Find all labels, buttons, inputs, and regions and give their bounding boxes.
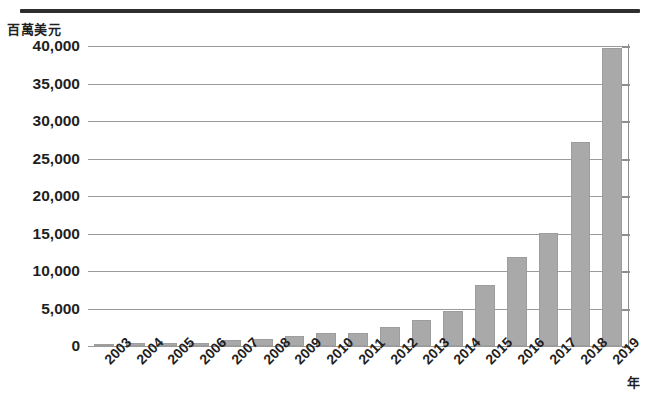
gridline bbox=[88, 159, 628, 160]
y-tick-label: 5,000 bbox=[2, 300, 80, 318]
x-axis-tick-labels: 2003200420052006200720082009201020112012… bbox=[88, 346, 628, 412]
y-tick-label: 25,000 bbox=[2, 150, 80, 168]
y-tick-label: 40,000 bbox=[2, 37, 80, 55]
chart-figure: 百萬美元 05,00010,00015,00020,00025,00030,00… bbox=[0, 0, 647, 412]
x-axis-unit-label: 年 bbox=[627, 372, 640, 391]
bar-2017 bbox=[539, 233, 559, 346]
gridline bbox=[88, 46, 628, 47]
bar-2016 bbox=[507, 257, 527, 346]
right-axis-tick bbox=[622, 309, 630, 311]
y-tick-label: 0 bbox=[2, 337, 80, 355]
right-axis-tick bbox=[622, 46, 630, 48]
y-tick-label: 30,000 bbox=[2, 112, 80, 130]
gridline bbox=[88, 84, 628, 85]
right-axis-tick bbox=[622, 159, 630, 161]
right-axis-tick bbox=[622, 271, 630, 273]
right-axis-tick bbox=[622, 121, 630, 123]
y-axis-tick-labels: 05,00010,00015,00020,00025,00030,00035,0… bbox=[0, 0, 80, 412]
right-axis-tick bbox=[622, 196, 630, 198]
bar-2019 bbox=[602, 48, 622, 347]
bar-2015 bbox=[475, 285, 495, 346]
right-axis-tick bbox=[622, 234, 630, 236]
top-divider-rule bbox=[20, 9, 640, 13]
gridline bbox=[88, 121, 628, 122]
right-axis-tick bbox=[622, 84, 630, 86]
gridline bbox=[88, 196, 628, 197]
bar-2018 bbox=[571, 142, 591, 346]
y-tick-label: 35,000 bbox=[2, 75, 80, 93]
y-tick-label: 20,000 bbox=[2, 187, 80, 205]
plot-area bbox=[88, 46, 628, 346]
y-tick-label: 15,000 bbox=[2, 225, 80, 243]
y-tick-label: 10,000 bbox=[2, 262, 80, 280]
